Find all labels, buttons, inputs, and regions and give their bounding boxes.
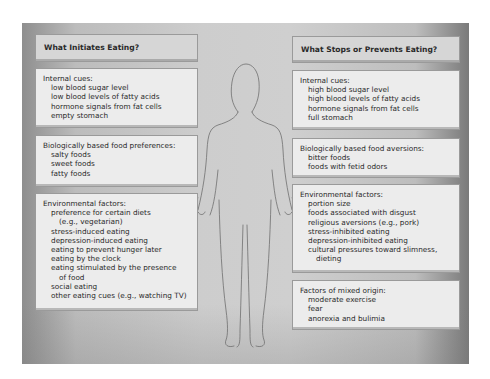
list-item: fear [300, 304, 453, 313]
list-item: social eating [43, 282, 191, 291]
list-item: fatty foods [43, 169, 191, 178]
list-item-continuation: of food [43, 273, 191, 282]
list-item: empty stomach [43, 111, 191, 120]
list-item: depression-inhibited eating [300, 236, 453, 245]
list-item: foods with fetid odors [300, 162, 453, 171]
section-title: Biologically based food preferences: [43, 141, 191, 150]
list-item: depression-induced eating [43, 236, 191, 245]
left-environmental-factors-box: Environmental factors: preference for ce… [35, 193, 198, 311]
list-item: bitter foods [300, 153, 453, 162]
left-food-preferences-box: Biologically based food preferences: sal… [35, 135, 198, 187]
heading-text: What Initiates Eating? [44, 43, 139, 52]
list-item: moderate exercise [300, 295, 453, 304]
list-item: high blood sugar level [300, 85, 453, 94]
list-item: anorexia and bulimia [300, 314, 453, 323]
section-title: Factors of mixed origin: [300, 286, 453, 295]
list-item: religious aversions (e.g., pork) [300, 218, 453, 227]
list-item: hormone signals from fat cells [43, 102, 191, 111]
list-item: cultural pressures toward slimness, [300, 245, 453, 254]
initiates-eating-heading: What Initiates Eating? [35, 34, 198, 62]
right-internal-cues-box: Internal cues: high blood sugar level hi… [292, 70, 460, 130]
list-item-continuation: dieting [300, 254, 453, 263]
heading-text: What Stops or Prevents Eating? [301, 45, 437, 54]
list-item: eating to prevent hunger later [43, 245, 191, 254]
list-item: foods associated with disgust [300, 208, 453, 217]
list-item: sweet foods [43, 159, 191, 168]
list-item: salty foods [43, 150, 191, 159]
right-food-aversions-box: Biologically based food aversions: bitte… [292, 138, 460, 178]
right-mixed-origin-box: Factors of mixed origin: moderate exerci… [292, 280, 460, 330]
list-item: stress-inhibited eating [300, 227, 453, 236]
list-item-continuation: (e.g., vegetarian) [43, 217, 191, 226]
list-item: eating by the clock [43, 254, 191, 263]
section-title: Environmental factors: [300, 190, 453, 199]
left-internal-cues-box: Internal cues: low blood sugar level low… [35, 68, 198, 128]
list-item: hormone signals from fat cells [300, 104, 453, 113]
section-title: Internal cues: [300, 76, 453, 85]
list-item: preference for certain diets [43, 208, 191, 217]
right-environmental-factors-box: Environmental factors: portion size food… [292, 184, 460, 273]
section-title: Internal cues: [43, 74, 191, 83]
list-item: portion size [300, 199, 453, 208]
section-title: Biologically based food aversions: [300, 144, 453, 153]
list-item: low blood sugar level [43, 83, 191, 92]
list-item: full stomach [300, 113, 453, 122]
list-item: low blood levels of fatty acids [43, 92, 191, 101]
list-item: stress-induced eating [43, 227, 191, 236]
list-item: eating stimulated by the presence [43, 263, 191, 272]
list-item: high blood levels of fatty acids [300, 94, 453, 103]
section-title: Environmental factors: [43, 199, 191, 208]
stops-eating-heading: What Stops or Prevents Eating? [292, 36, 460, 63]
list-item: other eating cues (e.g., watching TV) [43, 291, 191, 300]
